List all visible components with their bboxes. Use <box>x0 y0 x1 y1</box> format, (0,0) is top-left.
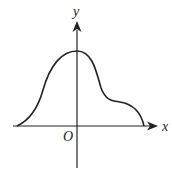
function-graph: y x O <box>0 0 172 172</box>
function-curve <box>17 51 144 126</box>
origin-label: O <box>63 129 73 144</box>
x-axis-label: x <box>161 119 169 134</box>
y-axis-label: y <box>71 4 80 19</box>
